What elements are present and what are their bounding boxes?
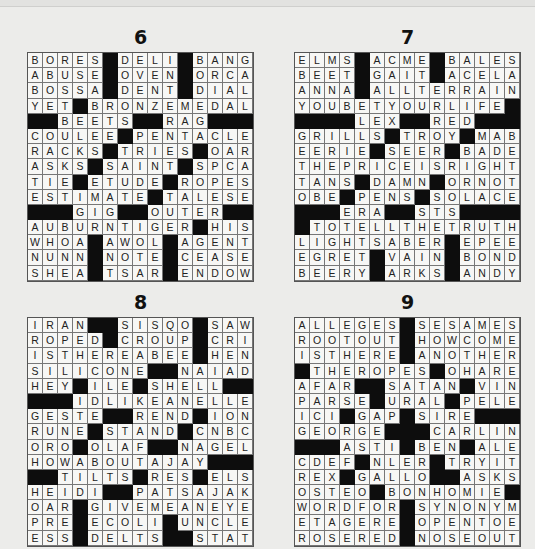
black-square — [163, 266, 178, 281]
letter-cell: H — [43, 235, 58, 250]
letter-cell: E — [118, 348, 133, 363]
black-square — [118, 485, 133, 500]
letter-cell: E — [238, 500, 253, 515]
letter-cell: B — [43, 68, 58, 83]
letter-cell: R — [340, 379, 355, 394]
letter-cell: I — [325, 409, 340, 424]
letter-cell: E — [193, 205, 208, 220]
letter-cell: C — [310, 409, 325, 424]
letter-cell: O — [148, 333, 163, 348]
letter-cell: H — [73, 348, 88, 363]
letter-cell: E — [355, 394, 370, 409]
letter-cell: I — [415, 250, 430, 265]
black-square — [43, 394, 58, 409]
letter-cell: S — [430, 266, 445, 281]
letter-cell: T — [163, 485, 178, 500]
letter-cell: B — [340, 99, 355, 114]
letter-cell: T — [475, 515, 490, 530]
letter-cell: H — [430, 485, 445, 500]
letter-cell: A — [370, 53, 385, 68]
letter-cell: S — [445, 531, 460, 546]
letter-cell: S — [28, 364, 43, 379]
letter-cell: M — [178, 99, 193, 114]
letter-cell: R — [355, 364, 370, 379]
letter-cell: A — [370, 470, 385, 485]
black-square — [88, 250, 103, 265]
letter-cell: G — [355, 409, 370, 424]
letter-cell: S — [148, 531, 163, 546]
letter-cell: O — [118, 68, 133, 83]
letter-cell: I — [415, 159, 430, 174]
letter-cell: E — [505, 364, 520, 379]
letter-cell: L — [103, 440, 118, 455]
black-square — [340, 409, 355, 424]
letter-cell: L — [208, 379, 223, 394]
letter-cell: A — [295, 379, 310, 394]
letter-cell: D — [73, 485, 88, 500]
page-top-border — [0, 0, 535, 7]
letter-cell: Y — [475, 455, 490, 470]
letter-cell: C — [460, 333, 475, 348]
letter-cell: G — [475, 159, 490, 174]
letter-cell: A — [88, 83, 103, 98]
letter-cell: R — [430, 99, 445, 114]
letter-cell: W — [445, 333, 460, 348]
letter-cell: I — [490, 455, 505, 470]
letter-cell: X — [325, 470, 340, 485]
letter-cell: P — [295, 394, 310, 409]
letter-cell: S — [73, 159, 88, 174]
letter-cell: A — [133, 348, 148, 363]
letter-cell: O — [310, 500, 325, 515]
letter-cell: A — [193, 129, 208, 144]
letter-cell: A — [148, 455, 163, 470]
letter-cell: A — [340, 83, 355, 98]
letter-cell: B — [193, 53, 208, 68]
letter-cell: E — [490, 318, 505, 333]
letter-cell: O — [43, 129, 58, 144]
letter-cell: B — [88, 455, 103, 470]
letter-cell: G — [355, 424, 370, 439]
crossword-grid: ELMSACMEBALESBEETGAITACELAANNAALLTERRAIN… — [294, 52, 521, 282]
letter-cell: A — [223, 485, 238, 500]
letter-cell: N — [163, 129, 178, 144]
letter-cell: D — [208, 99, 223, 114]
letter-cell: B — [460, 144, 475, 159]
letter-cell: E — [163, 144, 178, 159]
letter-cell: D — [505, 250, 520, 265]
letter-cell: A — [178, 190, 193, 205]
letter-cell: N — [430, 250, 445, 265]
letter-cell: M — [490, 333, 505, 348]
letter-cell: I — [208, 364, 223, 379]
letter-cell: D — [460, 114, 475, 129]
letter-cell: T — [238, 235, 253, 250]
letter-cell: A — [325, 379, 340, 394]
letter-cell: R — [133, 144, 148, 159]
letter-cell: U — [490, 531, 505, 546]
letter-cell: T — [73, 409, 88, 424]
letter-cell: T — [28, 175, 43, 190]
letter-cell: A — [310, 394, 325, 409]
black-square — [148, 364, 163, 379]
letter-cell: T — [460, 348, 475, 363]
letter-cell: E — [133, 190, 148, 205]
letter-cell: S — [340, 394, 355, 409]
letter-cell: D — [385, 531, 400, 546]
letter-cell: N — [505, 424, 520, 439]
black-square — [325, 440, 340, 455]
black-square — [133, 470, 148, 485]
black-square — [43, 205, 58, 220]
letter-cell: D — [88, 394, 103, 409]
letter-cell: L — [238, 99, 253, 114]
letter-cell: E — [73, 114, 88, 129]
letter-cell: D — [238, 364, 253, 379]
black-square — [400, 424, 415, 439]
letter-cell: R — [415, 129, 430, 144]
letter-cell: T — [133, 455, 148, 470]
letter-cell: E — [325, 190, 340, 205]
letter-cell: E — [193, 250, 208, 265]
black-square — [475, 114, 490, 129]
letter-cell: R — [148, 470, 163, 485]
letter-cell: T — [310, 220, 325, 235]
black-square — [445, 235, 460, 250]
letter-cell: O — [430, 531, 445, 546]
